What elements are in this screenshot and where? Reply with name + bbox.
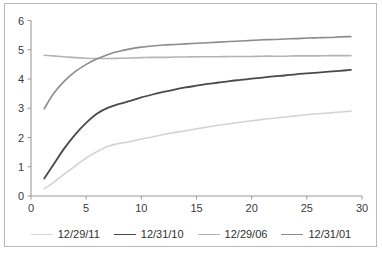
series-line-12-29-06 <box>44 55 351 58</box>
x-tick-label: 0 <box>28 202 34 214</box>
line-chart-svg: 0123456 051015202530 <box>0 0 382 253</box>
legend-item[interactable]: 12/29/06 <box>198 228 268 240</box>
chart-legend: 12/29/1112/31/1012/29/0612/31/01 <box>12 224 370 244</box>
legend-label: 12/31/10 <box>141 228 184 240</box>
legend-swatch-line-icon <box>31 234 53 235</box>
x-tick-label: 20 <box>246 202 258 214</box>
y-tick-label: 2 <box>18 132 24 144</box>
legend-label: 12/29/06 <box>225 228 268 240</box>
series-group <box>44 37 351 189</box>
y-tick-label: 4 <box>18 73 24 85</box>
y-tick-label: 3 <box>18 102 24 114</box>
axis-tick-marks <box>28 21 363 200</box>
x-tick-label: 15 <box>190 202 202 214</box>
chart-page: 0123456 051015202530 12/29/1112/31/1012/… <box>0 0 382 253</box>
series-line-12-29-11 <box>44 111 351 189</box>
x-axis-tick-labels: 051015202530 <box>28 202 368 214</box>
y-axis-tick-labels: 0123456 <box>18 15 24 203</box>
legend-swatch-line-icon <box>198 234 220 235</box>
legend-swatch-line-icon <box>114 234 136 235</box>
legend-swatch-line-icon <box>281 234 303 235</box>
legend-label: 12/31/01 <box>308 228 351 240</box>
legend-item[interactable]: 12/31/01 <box>281 228 351 240</box>
x-tick-label: 10 <box>135 202 147 214</box>
plot-area: 0123456 051015202530 <box>0 0 382 253</box>
legend-label: 12/29/11 <box>58 228 100 240</box>
y-tick-label: 5 <box>18 44 24 56</box>
y-tick-label: 6 <box>18 15 24 27</box>
series-line-12-31-10 <box>44 70 351 179</box>
y-tick-label: 0 <box>18 190 24 202</box>
legend-item[interactable]: 12/31/10 <box>114 228 184 240</box>
legend-item[interactable]: 12/29/11 <box>31 228 100 240</box>
x-tick-label: 5 <box>83 202 89 214</box>
x-tick-label: 25 <box>301 202 313 214</box>
y-tick-label: 1 <box>18 161 24 173</box>
x-tick-label: 30 <box>356 202 368 214</box>
